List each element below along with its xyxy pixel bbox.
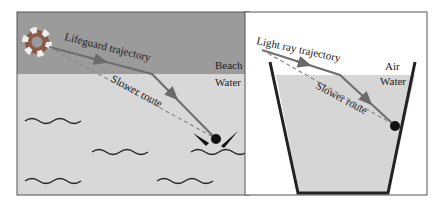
air-label: Air — [385, 60, 400, 72]
lifeguard-panel: Lifeguard trajectory Slower route Beach … — [17, 12, 249, 195]
water-label: Water — [380, 75, 406, 87]
water-label: Water — [215, 76, 241, 88]
target-dot — [390, 121, 400, 131]
lifebuoy-icon — [25, 30, 49, 54]
light-ray-panel: Light ray trajectory Slower route Air Wa… — [245, 12, 427, 195]
diagram: Lifeguard trajectory Slower route Beach … — [0, 0, 443, 205]
beach-label: Beach — [215, 59, 243, 71]
